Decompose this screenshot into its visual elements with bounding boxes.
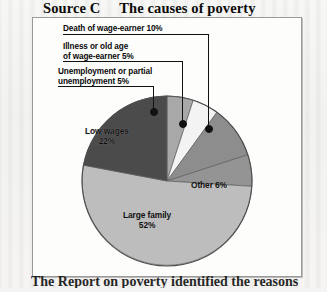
- callout-illness-line1: Illness or old age: [63, 42, 134, 52]
- leader-line-unemployment-horizontal: [58, 86, 154, 87]
- figure-page: Source C The causes of poverty: [0, 0, 327, 292]
- callout-death-of-wage-earner: Death of wage-earner 10%: [63, 24, 163, 34]
- callout-illness-or-old-age: Illness or old age of wage-earner 5%: [63, 42, 134, 61]
- leader-line-illness-vertical: [182, 61, 183, 123]
- callout-unemployment-line2: unemployment 5%: [58, 77, 152, 87]
- slice-label-large-family: Large family 52%: [123, 210, 171, 230]
- source-label: Source C: [43, 0, 100, 17]
- leader-line-death-horizontal: [63, 34, 209, 35]
- leader-dot-unemployment: [150, 108, 158, 116]
- slice-label-large-family-pct: 52%: [123, 220, 171, 230]
- leader-line-death-vertical: [208, 34, 209, 128]
- figure-frame: Low wages 22% Large family 52% Other 6% …: [32, 17, 302, 277]
- callout-unemployment: Unemployment or partial unemployment 5%: [58, 67, 152, 86]
- slice-label-low-wages-pct: 22%: [85, 136, 129, 146]
- leader-dot-illness: [179, 120, 187, 128]
- slice-label-low-wages: Low wages 22%: [85, 126, 129, 146]
- slice-label-large-family-text: Large family: [123, 210, 171, 220]
- slice-label-other: Other 6%: [191, 180, 227, 190]
- leader-line-illness-horizontal: [63, 61, 183, 62]
- callout-unemployment-line1: Unemployment or partial: [58, 67, 152, 77]
- callout-illness-line2: of wage-earner 5%: [63, 52, 134, 62]
- page-title: The causes of poverty: [119, 0, 255, 17]
- page-bottom-crop-mask: [0, 288, 327, 292]
- slice-label-low-wages-text: Low wages: [85, 126, 129, 136]
- leader-dot-death: [205, 125, 213, 133]
- callout-death-line1: Death of wage-earner 10%: [63, 24, 163, 34]
- page-heading: Source C The causes of poverty: [0, 0, 327, 17]
